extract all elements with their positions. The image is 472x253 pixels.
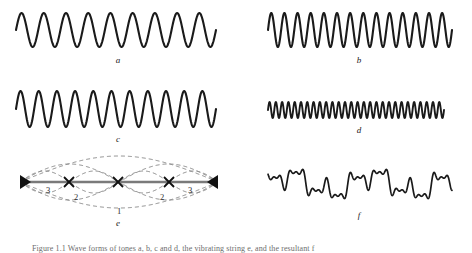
panel-label-e: e: [108, 218, 128, 228]
waveform-a: [0, 6, 236, 54]
mode-number-label: 2: [74, 192, 78, 202]
waveform-b: [236, 6, 472, 54]
mode-envelope: [20, 156, 218, 182]
panel-c: [0, 84, 236, 134]
panel-a: [0, 6, 236, 54]
panel-label-d: d: [349, 125, 369, 135]
waveform-f: [236, 158, 472, 210]
panel-b: [236, 6, 472, 54]
panel-f: [236, 158, 472, 210]
panel-label-f: f: [349, 210, 369, 220]
panel-e: 32123: [0, 152, 236, 220]
panel-d: [236, 96, 472, 124]
mode-number-group: 32123: [46, 185, 192, 216]
mode-number-label: 1: [117, 206, 121, 216]
mode-number-label: 3: [46, 185, 50, 195]
string-modes-diagram: 32123: [0, 152, 236, 220]
figure-caption: Figure 1.1 Wave forms of tones a, b, c a…: [32, 244, 442, 253]
mode-number-label: 3: [188, 185, 192, 195]
panel-label-b: b: [349, 55, 369, 65]
mode-envelope: [20, 164, 218, 182]
string-endpoint-node: [207, 175, 218, 189]
panel-label-a: a: [108, 55, 128, 65]
waveform-d: [236, 96, 472, 124]
mode-number-label: 2: [160, 192, 164, 202]
waveform-c: [0, 84, 236, 134]
panel-label-c: c: [108, 134, 128, 144]
